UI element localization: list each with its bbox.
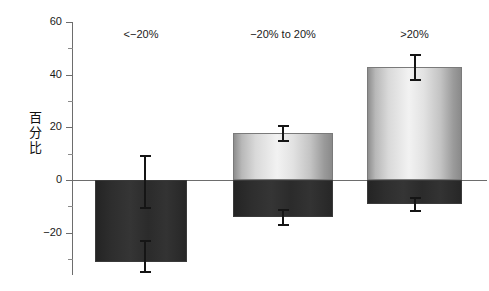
error-bar-cap-bottom: [410, 79, 421, 81]
error-bar-cap-top: [410, 197, 421, 199]
error-bar-cap-top: [140, 155, 151, 157]
category-label-3: >20%: [367, 28, 462, 40]
y-tick-minor-m10: [68, 206, 73, 207]
y-tick-minor-30: [68, 101, 73, 102]
y-tick-major-m20: [66, 233, 73, 234]
y-axis-title-char-3: 比: [18, 140, 52, 155]
y-tick-minor-10: [68, 154, 73, 155]
error-bar-1-upper: [125, 155, 165, 209]
y-tick-major-40: [66, 75, 73, 76]
y-tick-label-0: 0: [34, 173, 62, 185]
error-bar-2-lower: [263, 209, 303, 226]
y-tick-label-40: 40: [34, 68, 62, 80]
error-bar-3-lower: [395, 197, 435, 212]
bar-chart: 百 分 比 60 40 20 0 −20 <−20% −20% to 20% >…: [0, 0, 489, 291]
bar-positive-3: [367, 67, 462, 180]
y-axis-line: [72, 22, 73, 275]
error-bar-cap-top: [278, 209, 289, 211]
error-bar-cap-bottom: [410, 210, 421, 212]
category-label-1: <−20%: [95, 28, 187, 40]
error-bar-line: [414, 54, 416, 81]
error-bar-3-upper: [395, 54, 435, 81]
error-bar-2-upper: [263, 125, 303, 142]
y-tick-label-60: 60: [34, 15, 62, 27]
error-bar-cap-top: [410, 54, 421, 56]
error-bar-1-lower: [125, 240, 165, 273]
y-axis-title: 百 分 比: [18, 110, 52, 155]
error-bar-cap-bottom: [140, 207, 151, 209]
y-tick-major-0: [66, 180, 73, 181]
error-bar-cap-top: [140, 240, 151, 242]
y-tick-label-20: 20: [34, 120, 62, 132]
error-bar-line: [144, 240, 146, 273]
y-tick-major-60: [66, 22, 73, 23]
y-tick-label-m20: −20: [34, 226, 62, 238]
error-bar-cap-bottom: [278, 140, 289, 142]
error-bar-cap-bottom: [278, 224, 289, 226]
error-bar-cap-top: [278, 125, 289, 127]
error-bar-cap-bottom: [140, 271, 151, 273]
y-tick-major-20: [66, 127, 73, 128]
y-tick-minor-50: [68, 48, 73, 49]
error-bar-line: [144, 155, 146, 209]
category-label-2: −20% to 20%: [228, 28, 338, 40]
y-tick-minor-m30: [68, 259, 73, 260]
